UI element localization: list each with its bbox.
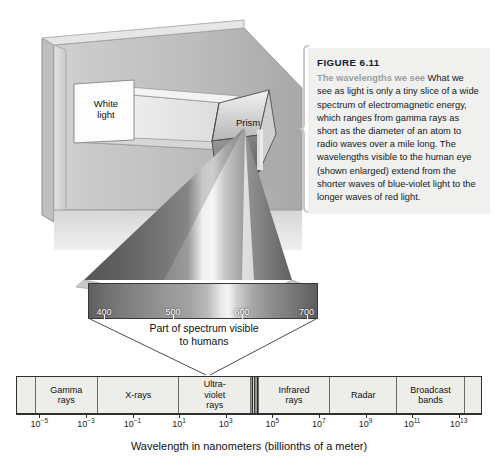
figure-caption-body: What we see as light is only a tiny slic… (317, 73, 479, 202)
em-band-label: Broadcast bands (409, 385, 452, 406)
em-band: Ultra- violet rays (179, 377, 251, 413)
axis-tick-label: 10−1 (124, 419, 141, 429)
em-band-label: Gamma rays (49, 385, 83, 406)
em-band (17, 377, 36, 413)
em-band (465, 377, 481, 413)
axis-tick-label: 1011 (404, 419, 421, 429)
em-spectrum-chart: Gamma raysX-raysUltra- violet raysInfrar… (16, 376, 482, 414)
room-left-wall-inner (54, 45, 66, 216)
figure-caption-lede: The wavelengths we see (317, 73, 425, 83)
em-band-label: Ultra- violet rays (203, 379, 227, 411)
axis-tick-mark (226, 414, 227, 418)
figure-caption-panel: FIGURE 6.11 The wavelengths we see What … (308, 48, 490, 214)
visible-spectrum-strip: 400500600700 (88, 283, 318, 319)
figure-6-11: White light Prism 400500600700 Part of s… (0, 0, 498, 475)
em-band-label: Infrared rays (277, 385, 310, 406)
em-band-label: Radar (350, 390, 377, 401)
axis-tick-label: 10−5 (31, 419, 48, 429)
em-band-visible-light (251, 377, 258, 413)
em-band-label: X-rays (124, 390, 152, 401)
prism-label: Prism (236, 117, 278, 128)
prism-illustration: White light Prism (14, 10, 304, 310)
funnel-connector (88, 318, 328, 376)
axis-tick-mark (366, 414, 367, 418)
axis-tick-label: 107 (312, 419, 326, 429)
em-band: Gamma rays (36, 377, 99, 413)
axis-tick-label: 103 (219, 419, 233, 429)
figure-number: FIGURE 6.11 (317, 56, 481, 69)
axis-tick-label: 105 (265, 419, 279, 429)
axis-title: Wavelength in nanometers (billionths of … (0, 440, 498, 452)
axis-tick-mark (272, 414, 273, 418)
em-band: Broadcast bands (397, 377, 464, 413)
axis-tick-label: 1013 (450, 419, 467, 429)
funnel-line-left (90, 319, 206, 375)
room-left-wall (42, 38, 54, 222)
white-light-label: White light (82, 98, 130, 120)
em-band: X-rays (98, 377, 179, 413)
em-spectrum-bands: Gamma raysX-raysUltra- violet raysInfrar… (16, 376, 482, 414)
funnel-line-right (210, 319, 316, 375)
em-spectrum-axis: 10−510−310−110110310510710910111013 (16, 414, 482, 436)
axis-tick-label: 101 (172, 419, 186, 429)
axis-tick-label: 109 (359, 419, 373, 429)
axis-tick-mark (319, 414, 320, 418)
axis-tick-label: 10−3 (77, 419, 94, 429)
visible-spectrum-bar (88, 283, 318, 319)
em-band: Infrared rays (259, 377, 330, 413)
em-band: Radar (330, 377, 397, 413)
prism-edge-highlight (257, 129, 263, 170)
prism-illustration-svg (14, 10, 304, 310)
axis-tick-mark (179, 414, 180, 418)
